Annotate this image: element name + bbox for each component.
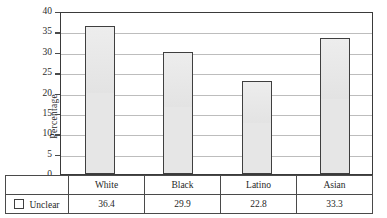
y-axis-tick-label: 5 <box>47 150 52 160</box>
table-value-cell: 36.4 <box>69 195 145 214</box>
y-axis-tick-label: 25 <box>43 68 53 78</box>
bar-latino <box>242 81 272 174</box>
y-axis-tick-label: 15 <box>43 109 53 119</box>
table-header-cell: Asian <box>297 176 373 195</box>
table-value-row: Unclear36.429.922.833.3 <box>6 195 373 214</box>
bar-asian <box>320 38 350 174</box>
y-axis-tick-label: 35 <box>43 28 53 38</box>
y-axis-tick-label: 40 <box>43 7 53 17</box>
bar-chart-figure: Percentage 4035302520151050 WhiteBlackLa… <box>0 0 387 218</box>
y-axis-tick-label: 10 <box>43 130 53 140</box>
legend-label: Unclear <box>29 200 59 210</box>
white-square-icon <box>14 199 24 209</box>
table-value-cell: 22.8 <box>221 195 297 214</box>
y-axis-tick-label: 20 <box>43 89 53 99</box>
data-table: WhiteBlackLatinoAsian Unclear36.429.922.… <box>5 175 373 214</box>
table-value-cell: 29.9 <box>145 195 221 214</box>
table-header-cell: White <box>69 176 145 195</box>
table-header-row: WhiteBlackLatinoAsian <box>6 176 373 195</box>
table-value-cell: 33.3 <box>297 195 373 214</box>
bar-white <box>85 26 115 174</box>
table-header-cell: Latino <box>221 176 297 195</box>
plot-area <box>60 12 373 175</box>
bar-black <box>163 52 193 174</box>
table-header-cell: Black <box>145 176 221 195</box>
table-corner-blank <box>6 176 69 195</box>
y-axis-tick-label: 30 <box>43 48 53 58</box>
legend-entry[interactable]: Unclear <box>6 195 69 214</box>
